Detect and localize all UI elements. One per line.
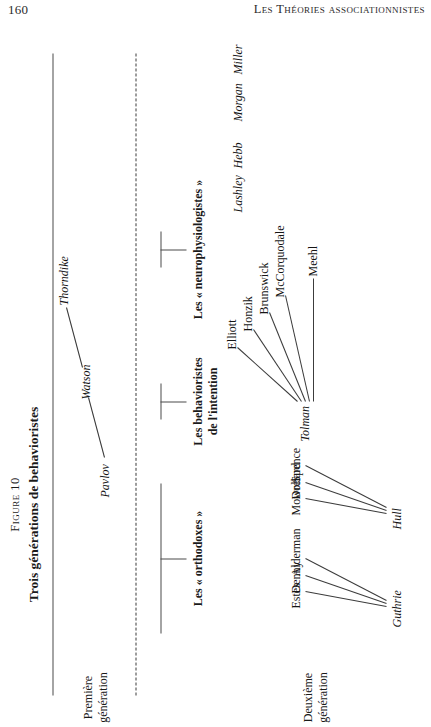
figure-canvas: Figure 10 Trois générations de behaviori… bbox=[0, 24, 431, 719]
bracket-neuro bbox=[160, 231, 186, 267]
group-intention-line2: de l'intention bbox=[205, 341, 220, 461]
group-orthodoxes-line1: Les « orthodoxes » bbox=[190, 498, 205, 618]
bracket-orthodoxes bbox=[160, 483, 186, 633]
figure-10: Figure 10 Trois générations de behaviori… bbox=[0, 24, 431, 719]
node-morgan: Morgan bbox=[230, 83, 245, 121]
running-head: Les Théories associationnistes bbox=[254, 2, 425, 17]
node-alderman: Alderman bbox=[288, 528, 303, 576]
node-tolman: Tolman bbox=[297, 405, 312, 441]
node-watson: Watson bbox=[78, 364, 93, 399]
bracket-intention bbox=[160, 383, 186, 419]
node-lashley: Lashley bbox=[230, 175, 245, 212]
node-brunswick: Brunswick bbox=[256, 262, 271, 314]
edge-tolman-elliott bbox=[237, 347, 297, 401]
group-heading-neuro: Les « neurophysiologistes » bbox=[190, 169, 205, 329]
group-intention-line1: Les behavioristes bbox=[190, 341, 205, 461]
node-hebb: Hebb bbox=[230, 142, 245, 168]
node-honzik: Honzik bbox=[240, 296, 255, 331]
edge-hull-mowrer bbox=[305, 498, 386, 513]
node-elliott: Elliott bbox=[224, 319, 239, 349]
edge-watson-pavlov bbox=[88, 397, 104, 457]
node-thorndike: Thorndike bbox=[56, 256, 71, 305]
edge-watson-thorndike bbox=[66, 307, 82, 367]
group-heading-intention: Les behavioristes de l'intention bbox=[190, 341, 220, 461]
node-miller: Miller bbox=[230, 44, 245, 74]
node-hull: Hull bbox=[389, 508, 404, 529]
node-mccorquodale: McCorquodale bbox=[272, 225, 287, 297]
group-neuro-line1: Les « neurophysiologistes » bbox=[190, 169, 205, 329]
node-spence: Spence bbox=[288, 447, 303, 482]
edge-guthrie-estes bbox=[305, 591, 386, 606]
edge-tolman-mccorquodale bbox=[285, 295, 309, 401]
node-pavlov: Pavlov bbox=[97, 464, 112, 497]
edge-tolman-honzik bbox=[253, 329, 301, 401]
group-heading-orthodoxes: Les « orthodoxes » bbox=[190, 498, 205, 618]
page-folio: 160 bbox=[8, 2, 28, 18]
node-guthrie: Guthrie bbox=[389, 590, 404, 627]
node-meehl: Meehl bbox=[305, 245, 320, 276]
